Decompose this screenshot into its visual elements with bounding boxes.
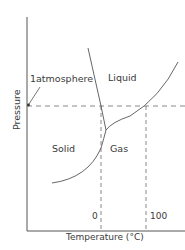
sublimation-curve (52, 130, 106, 183)
x-tick-0: 0 (92, 211, 98, 221)
phase-diagram: 1atmosphere Liquid Solid Gas 0 100 Tempe… (0, 0, 185, 250)
region-liquid: Liquid (108, 72, 137, 83)
annotation-arrow (29, 87, 40, 104)
annotation-label: 1atmosphere (30, 73, 93, 84)
x-tick-100: 100 (150, 211, 167, 221)
y-axis-label: Pressure (11, 89, 22, 130)
region-solid: Solid (52, 143, 75, 154)
x-axis-label: Temperature (°C) (65, 232, 144, 242)
region-gas: Gas (110, 143, 128, 154)
melting-curve (88, 48, 106, 130)
annotation-point (27, 104, 30, 107)
